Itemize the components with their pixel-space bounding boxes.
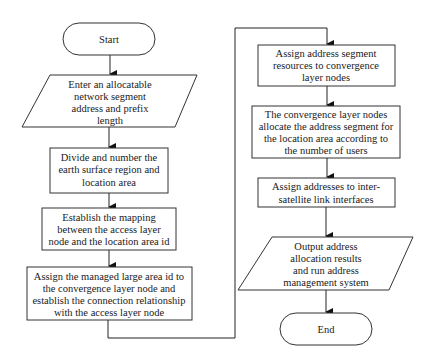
node-text: network segment (74, 91, 146, 102)
node-text: management system (283, 277, 368, 288)
node-text: the number of users (284, 145, 367, 156)
node-text: Output address (294, 241, 357, 252)
node-text: node and the location area id (49, 236, 171, 247)
node-text: Start (99, 34, 119, 45)
node-start: Start (63, 23, 155, 55)
node-text: Assign addresses to inter- (272, 181, 380, 192)
node-output: Output address allocation results and ru… (238, 237, 413, 290)
node-text: address and prefix (72, 103, 150, 114)
node-divide: Divide and number the earth surface regi… (50, 148, 168, 193)
node-assign-segment: Assign address segment resources to conv… (258, 45, 395, 86)
node-text: Establish the mapping (62, 212, 156, 223)
node-end: End (280, 313, 372, 345)
node-text: allocation results (290, 253, 361, 264)
node-text: establish the connection relationship (32, 295, 185, 306)
node-text: The convergence layer nodes (265, 109, 388, 120)
node-text: resources to convergence (273, 60, 379, 71)
node-text: the location area according to (264, 133, 388, 144)
node-text: length (97, 115, 124, 126)
node-text: layer nodes (302, 72, 350, 83)
node-mapping: Establish the mapping between the access… (42, 208, 176, 250)
flowchart-svg: Start Enter an allocatable network segme… (0, 0, 435, 360)
node-text: satellite link interfaces (278, 194, 373, 205)
node-text: location area (82, 177, 136, 188)
node-text: Divide and number the (61, 152, 158, 163)
node-text: and run address (293, 265, 359, 276)
node-assign-large-area: Assign the managed large area id to the … (27, 267, 192, 320)
node-input: Enter an allocatable network segment add… (22, 75, 197, 127)
node-allocate-location: The convergence layer nodes allocate the… (252, 106, 400, 158)
node-text: Enter an allocatable (68, 79, 152, 90)
node-text: the convergence layer node and (43, 283, 176, 294)
node-text: allocate the address segment for (259, 121, 394, 132)
node-assign-isl: Assign addresses to inter- satellite lin… (258, 178, 395, 207)
node-text: with the access layer node (54, 307, 165, 318)
node-text: End (318, 324, 336, 335)
node-text: Assign address segment (276, 48, 377, 59)
node-text: between the access layer (57, 224, 161, 235)
node-text: Assign the managed large area id to (34, 271, 184, 282)
flowchart-canvas: Start Enter an allocatable network segme… (0, 0, 435, 360)
node-text: earth surface region and (58, 164, 160, 175)
